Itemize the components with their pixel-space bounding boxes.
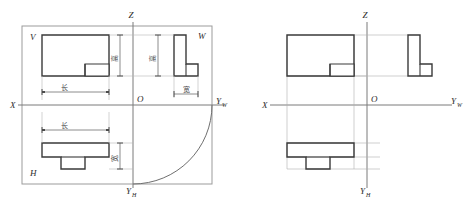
- dimension-height-front-label: 高: [110, 55, 119, 62]
- axis-label-o-right: O: [371, 94, 378, 104]
- axis-label-o-left: O: [137, 94, 144, 104]
- dimension-width-top-label: 宽: [110, 155, 119, 162]
- front-view-notch-right: [330, 64, 354, 76]
- drawing-canvas: 长 长 高 高 宽 宽: [0, 0, 475, 209]
- dimension-length-front-label: 长: [61, 83, 68, 92]
- front-view-notch: [85, 64, 109, 76]
- dimension-height-side-label: 高: [148, 55, 157, 62]
- axis-label-x-left: X: [9, 100, 16, 110]
- technical-drawing-figure: 长 长 高 高 宽 宽: [0, 0, 475, 209]
- axis-label-x-right: X: [261, 100, 268, 110]
- plane-label-h: H: [29, 168, 37, 178]
- axis-label-yh-right-sub: H: [365, 192, 371, 198]
- dimension-length-top-label: 长: [61, 121, 68, 130]
- dimension-width-side-label: 宽: [183, 85, 190, 94]
- axis-label-yh-left-sub: H: [131, 192, 137, 198]
